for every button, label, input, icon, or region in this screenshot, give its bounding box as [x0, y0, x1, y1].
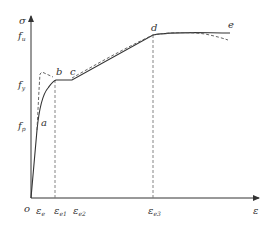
point-a-label: a [41, 118, 47, 128]
point-e-label: e [228, 20, 234, 30]
y-axis-label: σ [19, 16, 26, 26]
y-tick-fp: fp [18, 121, 26, 132]
model-curve [31, 33, 230, 199]
point-c-label: c [70, 67, 76, 77]
origin-label: o [24, 204, 30, 214]
actual-curve [37, 33, 228, 130]
x-tick-ee3: εe3 [148, 206, 161, 217]
y-tick-fy: fy [18, 80, 25, 91]
x-axis-label: ε [253, 206, 258, 216]
x-tick-ee: εe [36, 206, 45, 217]
point-d-label: d [151, 23, 157, 33]
x-tick-ee2: εe2 [73, 206, 86, 217]
point-b-label: b [56, 67, 62, 77]
y-tick-fu: fu [18, 31, 26, 42]
x-tick-ee1: εe1 [54, 206, 67, 217]
